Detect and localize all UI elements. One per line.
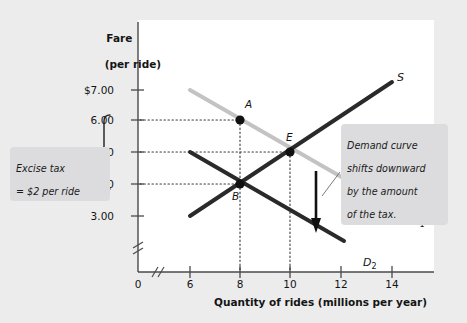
demand-shift-annotation: Demand curve shifts downward by the amou… <box>341 124 448 225</box>
point-e-marker <box>285 147 294 156</box>
chart-figure: Fare (per ride) Quantity of rides (milli… <box>0 0 467 323</box>
point-a-label: A <box>245 98 252 110</box>
demand-shift-line2: shifts downward <box>347 163 426 174</box>
x-tick-label-14: 14 <box>380 278 404 290</box>
shift-callout-leader <box>322 172 340 196</box>
y-axis-title-line1: Fare <box>106 32 132 44</box>
supply-curve-label: S <box>397 71 404 84</box>
x-tick-label-10: 10 <box>278 278 302 290</box>
demand-d2-subscript: 2 <box>371 262 376 271</box>
point-b-label: B <box>232 190 239 202</box>
y-tick-label-7: $7.00 <box>68 84 114 96</box>
y-tick-label-6: 6.00 <box>68 114 114 126</box>
demand-curve-d2-label: D2 <box>349 243 377 284</box>
x-axis-title: Quantity of rides (millions per year) <box>214 296 427 309</box>
y-tick-label-3: 3.00 <box>68 210 114 222</box>
excise-tax-annotation: Excise tax = $2 per ride <box>10 147 110 201</box>
y-axis-title: Fare (per ride) <box>90 19 134 84</box>
demand-shift-line3: by the amount <box>347 186 418 197</box>
demand-shift-line1: Demand curve <box>347 140 418 151</box>
point-b-marker <box>235 179 244 188</box>
y-axis-title-line2: (per ride) <box>105 58 161 70</box>
x-tick-label-6: 6 <box>178 278 202 290</box>
point-e-label: E <box>286 131 293 143</box>
demand-shift-line4: of the tax. <box>347 209 396 220</box>
x-tick-label-0: 0 <box>126 278 150 290</box>
x-tick-label-8: 8 <box>228 278 252 290</box>
excise-tax-line2: = $2 per ride <box>16 186 80 197</box>
point-a-marker <box>235 115 244 124</box>
excise-tax-line1: Excise tax <box>16 163 65 174</box>
